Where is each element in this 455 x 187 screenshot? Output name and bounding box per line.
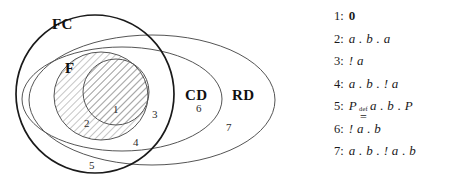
figure-root: FC F CD RD 1 2 3 4 5 6 7 1: 0 2: a . b .… — [0, 0, 455, 187]
legend-item-6: 6: ! a . b — [334, 121, 455, 144]
set-label-rd: RD — [232, 87, 254, 103]
legend-expression-1: 0 — [349, 8, 356, 24]
legend-expression-3: ! a — [349, 53, 364, 69]
legend-expression-5: Pdef=a . b . P — [349, 98, 413, 121]
legend-expr5-left: P — [349, 98, 357, 113]
region-number-7: 7 — [226, 121, 232, 133]
legend-expr5-right: a . b . P — [370, 98, 413, 113]
legend-item-5: 5: Pdef=a . b . P — [334, 98, 455, 121]
region-number-4: 4 — [133, 136, 139, 148]
set-label-cd: CD — [185, 87, 207, 103]
legend-index-6: 6: — [334, 122, 344, 137]
legend-index-4: 4: — [334, 77, 344, 92]
legend-item-3: 3: ! a — [334, 53, 455, 76]
region-number-3: 3 — [152, 108, 158, 120]
legend-index-1: 1: — [334, 9, 344, 24]
def-equals-symbol: def= — [359, 106, 368, 122]
equals-glyph: = — [360, 112, 367, 123]
set-label-fc: FC — [52, 16, 73, 32]
legend-expression-2: a . b . a — [349, 31, 391, 47]
legend-item-7: 7: a . b . ! a . b — [334, 143, 455, 166]
legend-expression-4: a . b . ! a — [349, 76, 399, 92]
legend-index-3: 3: — [334, 54, 344, 69]
legend-index-2: 2: — [334, 32, 344, 47]
legend-item-1: 1: 0 — [334, 8, 455, 31]
diagram-canvas: FC F CD RD 1 2 3 4 5 6 7 — [0, 0, 300, 187]
euler-diagram: FC F CD RD 1 2 3 4 5 6 7 — [0, 0, 300, 187]
legend-item-2: 2: a . b . a — [334, 31, 455, 54]
region-number-1: 1 — [113, 103, 119, 115]
legend-index-7: 7: — [334, 144, 344, 159]
legend: 1: 0 2: a . b . a 3: ! a 4: a . b . ! a … — [334, 8, 455, 183]
legend-item-4: 4: a . b . ! a — [334, 76, 455, 99]
set-label-f: F — [65, 60, 75, 76]
region-number-5: 5 — [89, 159, 95, 171]
region-number-6: 6 — [196, 102, 202, 114]
legend-index-5: 5: — [334, 99, 344, 114]
legend-expression-7: a . b . ! a . b — [349, 143, 416, 159]
region-number-2: 2 — [84, 117, 90, 129]
